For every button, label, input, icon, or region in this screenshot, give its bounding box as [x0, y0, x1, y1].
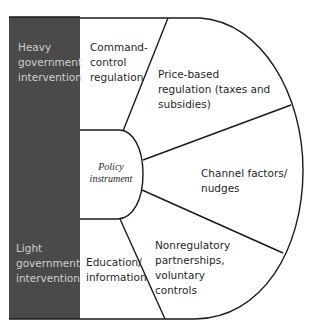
divider-price-channel: [143, 105, 291, 160]
policy-instrument-diagram: Heavy government intervention Light gove…: [0, 0, 313, 333]
segment-nonregulatory: Nonregulatory partnerships, voluntary co…: [155, 238, 230, 298]
segment-price-based: Price-based regulation (taxes and subsid…: [158, 67, 270, 112]
segment-channel-factors: Channel factors/ nudges: [201, 166, 287, 196]
segment-command-control: Command- control regulation: [90, 40, 148, 85]
light-intervention-label: Light government intervention: [16, 241, 80, 286]
heavy-intervention-label: Heavy government intervention: [18, 40, 82, 85]
center-policy-label: Policy instrument: [82, 161, 140, 185]
segment-education: Education/ information: [86, 255, 147, 285]
